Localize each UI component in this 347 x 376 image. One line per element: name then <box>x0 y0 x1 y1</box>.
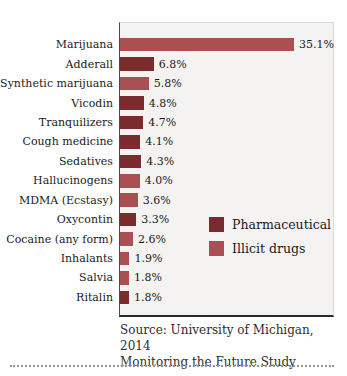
category-label: Synthetic marijuana <box>0 77 120 90</box>
bar-row: MDMA (Ecstasy)3.6% <box>0 191 340 210</box>
category-label: Adderall <box>0 58 120 71</box>
value-label: 4.3% <box>146 155 174 168</box>
dotted-divider <box>10 365 334 367</box>
value-label: 35.1% <box>299 38 334 51</box>
bar <box>120 135 140 149</box>
category-label: Vicodin <box>0 97 120 110</box>
bar-row: Ritalin1.8% <box>0 288 340 307</box>
value-label: 4.7% <box>148 116 176 129</box>
bar <box>120 271 129 285</box>
category-label: Ritalin <box>0 291 120 304</box>
value-label: 1.8% <box>134 271 162 284</box>
value-label: 2.6% <box>138 233 166 246</box>
source-note: Source: University of Michigan, 2014 Mon… <box>120 322 345 370</box>
bar-rows: Marijuana35.1%Adderall6.8%Synthetic mari… <box>0 35 340 307</box>
bar <box>120 193 138 207</box>
bar <box>120 96 144 110</box>
legend-label-pharmaceutical: Pharmaceutical <box>232 217 331 232</box>
source-line-2: Monitoring the Future Study <box>120 354 345 370</box>
value-label: 1.9% <box>134 252 162 265</box>
bar <box>120 57 154 71</box>
bar-row: Vicodin4.8% <box>0 93 340 112</box>
bar-row: Salvia1.8% <box>0 268 340 287</box>
bar <box>120 155 141 169</box>
legend-item-pharmaceutical: Pharmaceutical <box>209 217 331 232</box>
category-label: Salvia <box>0 271 120 284</box>
value-label: 4.1% <box>145 135 173 148</box>
category-label: Cough medicine <box>0 135 120 148</box>
bar-row: Cough medicine4.1% <box>0 132 340 151</box>
category-label: Tranquilizers <box>0 116 120 129</box>
pharmaceutical-swatch-icon <box>209 217 224 232</box>
category-label: MDMA (Ecstasy) <box>0 194 120 207</box>
source-line-1: Source: University of Michigan, 2014 <box>120 322 345 354</box>
value-label: 4.0% <box>145 174 173 187</box>
bar <box>120 38 294 52</box>
bar <box>120 116 143 130</box>
bar <box>120 252 129 266</box>
category-label: Hallucinogens <box>0 174 120 187</box>
category-label: Inhalants <box>0 252 120 265</box>
value-label: 1.8% <box>134 291 162 304</box>
legend: Pharmaceutical Illicit drugs <box>209 217 331 256</box>
legend-item-illicit: Illicit drugs <box>209 241 331 256</box>
category-label: Cocaine (any form) <box>0 233 120 246</box>
bar-row: Sedatives4.3% <box>0 152 340 171</box>
value-label: 5.8% <box>154 77 182 90</box>
value-label: 3.3% <box>141 213 169 226</box>
bar-row: Synthetic marijuana5.8% <box>0 74 340 93</box>
value-label: 4.8% <box>149 97 177 110</box>
bar <box>120 291 129 305</box>
illicit-swatch-icon <box>209 241 224 256</box>
bar-row: Hallucinogens4.0% <box>0 171 340 190</box>
bar <box>120 232 133 246</box>
legend-label-illicit: Illicit drugs <box>232 241 305 256</box>
category-label: Oxycontin <box>0 213 120 226</box>
bar <box>120 213 136 227</box>
bar <box>120 174 140 188</box>
category-label: Sedatives <box>0 155 120 168</box>
category-label: Marijuana <box>0 38 120 51</box>
value-label: 6.8% <box>159 58 187 71</box>
bar <box>120 77 149 91</box>
bar-row: Tranquilizers4.7% <box>0 113 340 132</box>
bar-row: Marijuana35.1% <box>0 35 340 54</box>
value-label: 3.6% <box>143 194 171 207</box>
bar-row: Adderall6.8% <box>0 54 340 73</box>
bar-chart-figure: Marijuana35.1%Adderall6.8%Synthetic mari… <box>0 0 347 376</box>
